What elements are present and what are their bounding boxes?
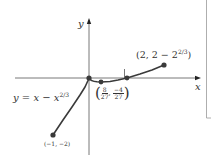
point-origin: [86, 75, 91, 80]
function-graph: [0, 0, 211, 163]
minimum-y-fraction: −427: [113, 87, 124, 100]
y-axis-arrow-icon: [87, 18, 91, 24]
x-axis-arrow-icon: [195, 76, 201, 80]
function-label: y = x − x2/3: [13, 92, 69, 103]
x-axis-label: x: [195, 82, 201, 92]
point-x-intercept: [125, 76, 130, 81]
minimum-label: (827, −427): [95, 86, 130, 101]
minimum-x-fraction: 827: [101, 87, 109, 100]
left-endpoint-label: (−1, −2): [44, 141, 70, 147]
right-endpoint-label: (2, 2 − 22/3): [136, 49, 191, 60]
function-label-exponent: 2/3: [59, 91, 69, 98]
function-label-lhs: y = x − x: [13, 92, 59, 103]
y-axis-label: y: [78, 19, 84, 29]
point-right-endpoint: [161, 62, 166, 67]
point-left-endpoint: [50, 132, 55, 137]
